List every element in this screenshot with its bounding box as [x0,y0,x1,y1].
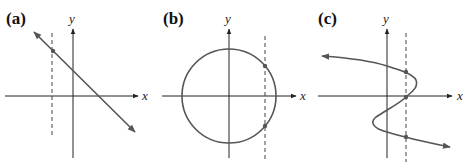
intersection-point [51,49,55,53]
s-curve [322,56,450,147]
panel-a: (a) x y [5,9,148,158]
intersection-point [263,124,267,128]
panel-b: (b) x y [162,9,306,161]
intersection-point [404,135,408,139]
y-axis-label: y [381,11,389,26]
x-axis-label: x [299,88,306,103]
panel-b-label: (b) [163,9,184,28]
y-axis-label: y [67,11,75,26]
line-curve [34,32,135,132]
intersection-point [404,70,408,74]
intersection-point [263,64,267,68]
x-axis-label: x [141,88,148,103]
vertical-line-test-figure: (a) x y (b) x y (c) x y [0,0,465,167]
intersection-point [404,95,408,99]
panel-a-label: (a) [6,9,26,28]
panel-c: (c) x y [318,9,463,162]
panel-c-label: (c) [318,9,337,28]
y-axis-label: y [223,11,231,26]
x-axis-label: x [456,88,463,103]
